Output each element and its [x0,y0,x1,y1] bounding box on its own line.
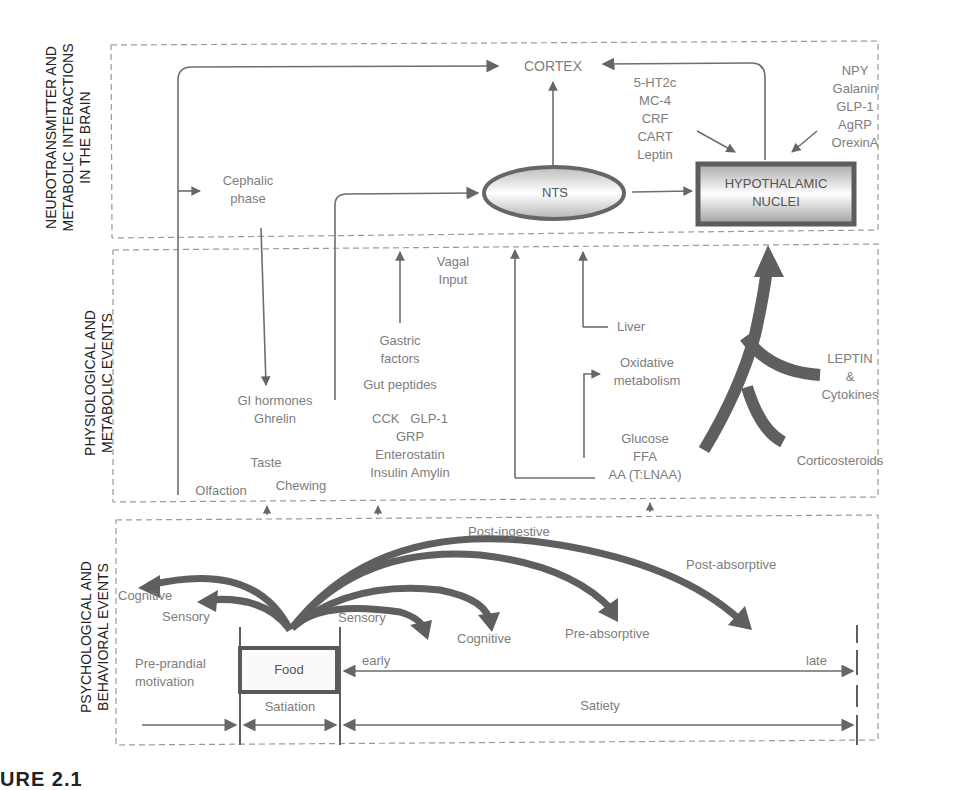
peptides-list: CCK GLP-1 GRP Enterostatin Insulin Amyli… [360,410,460,482]
pre-absorptive-label: Pre-absorptive [565,625,650,643]
cephalic-to-gi-arrow [261,228,266,385]
label-line: GRP [360,428,460,446]
orexigenic-signals-list: NPY Galanin GLP-1 AgRP OrexinA [820,62,890,152]
label-line: GI hormones [235,392,315,410]
pre-prandial-label: Pre-prandial motivation [135,655,206,691]
cephalic-phase-label: Cephalic phase [213,172,283,208]
label-line: HYPOTHALAMIC [700,175,852,193]
label-line: CART [625,128,685,146]
label-line: 5-HT2c [625,74,685,92]
inhibitory-signals-arrow [697,131,735,152]
gut-peptides-label: Gut peptides [345,376,455,394]
liver-label: Liver [617,318,645,336]
label-line: PSYCHOLOGICAL AND [78,537,95,737]
label-line: Glucose [600,430,690,448]
label-line: Leptin [625,146,685,164]
label-line: METABOLIC INTERACTIONS [60,28,77,248]
label-line: NUCLEI [700,193,852,211]
label-line: Input [428,271,478,289]
food-label: Food [244,661,334,679]
early-label: early [362,652,390,670]
figure-caption: URE 2.1 [0,768,83,790]
label-line: Ghrelin [235,410,315,428]
cortex-label: CORTEX [508,57,598,75]
label-line: CCK GLP-1 [360,410,460,428]
nts-label: NTS [520,184,590,202]
oxidative-metabolism-label: Oxidative metabolism [612,354,682,390]
nts-to-hypothalamus-arrow [632,191,692,192]
nutrients-label: Glucose FFA AA (T:LNAA) [600,430,690,484]
glucose-to-oxidative-arrow [584,374,600,458]
orexigenic-signals-arrow [792,131,817,152]
hypothalamus-input-arrowhead [754,245,784,277]
vagal-to-nts-arrow [335,193,478,400]
label-line: phase [213,190,283,208]
label-line: Gastric [370,332,430,350]
post-absorptive-label: Post-absorptive [686,556,776,574]
satiety-label: Satiety [560,697,640,715]
sensory-right-label: Sensory [338,609,386,627]
label-line: NPY [820,62,890,80]
brain-panel-label: NEUROTRANSMITTER AND METABOLIC INTERACTI… [43,28,94,248]
label-line: Oxidative [612,354,682,372]
gi-hormones-label: GI hormones Ghrelin [235,392,315,428]
label-line: PHYSIOLOGICAL AND [82,283,99,483]
gastric-factors-label: Gastric factors [370,332,430,368]
label-line: FFA [600,448,690,466]
label-line: GLP-1 [820,98,890,116]
leptin-branch [745,337,820,375]
label-line: motivation [135,673,206,691]
label-line: NEUROTRANSMITTER AND [43,28,60,248]
late-label: late [806,652,827,670]
label-line: CRF [625,110,685,128]
label-line: Galanin [820,80,890,98]
label-line: Cephalic [213,172,283,190]
chewing-label: Chewing [268,477,334,495]
corticosteroids-label: Corticosteroids [785,452,895,470]
satiation-label: Satiation [250,698,330,716]
taste-label: Taste [246,454,286,472]
label-line: LEPTIN [815,350,885,368]
corticosteroid-branch [747,387,783,442]
label-line: MC-4 [625,92,685,110]
label-line: AgRP [820,116,890,134]
label-line: OrexinA [820,134,890,152]
inhibitory-signals-list: 5-HT2c MC-4 CRF CART Leptin [625,74,685,164]
label-line: Enterostatin [360,446,460,464]
label-line: factors [370,350,430,368]
sensory-left-label: Sensory [162,608,210,626]
label-line: Cytokines [815,386,885,404]
post-ingestive-label: Post-ingestive [468,523,550,541]
label-line: Pre-prandial [135,655,206,673]
cognitive-right-label: Cognitive [457,630,511,648]
label-line: BEHAVIORAL EVENTS [95,537,112,737]
physiological-panel-label: PHYSIOLOGICAL AND METABOLIC EVENTS [82,283,116,483]
olfaction-label: Olfaction [190,482,252,500]
label-line: AA (T:LNAA) [600,466,690,484]
psychological-panel-label: PSYCHOLOGICAL AND BEHAVIORAL EVENTS [78,537,112,737]
sensory-left-arc [208,599,290,630]
vagal-input-label: Vagal Input [428,253,478,289]
label-line: Insulin Amylin [360,464,460,482]
label-line: Vagal [428,253,478,271]
label-line: metabolism [612,372,682,390]
leptin-cytokines-label: LEPTIN & Cytokines [815,350,885,404]
cognitive-left-label: Cognitive [118,587,172,605]
label-line: & [815,368,885,386]
label-line: METABOLIC EVENTS [99,283,116,483]
hypothalamic-nuclei-label: HYPOTHALAMIC NUCLEI [700,175,852,211]
label-line: IN THE BRAIN [77,28,94,248]
